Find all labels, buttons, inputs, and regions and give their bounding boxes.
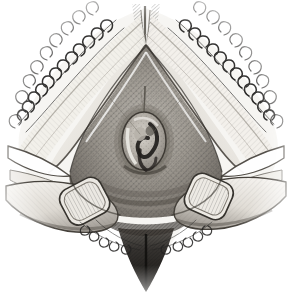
engraving-figure: Perineal examination engraving xyxy=(0,0,291,296)
engraving-plate xyxy=(0,0,291,296)
